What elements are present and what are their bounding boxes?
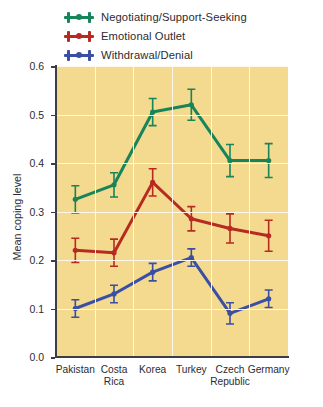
x-axis-tick-label: Pakistan <box>56 364 95 376</box>
x-axis-tick-label: CzechRepublic <box>210 364 250 388</box>
y-axis-tick-label: 0.1 <box>29 303 44 315</box>
data-point-marker <box>189 102 194 107</box>
data-point-marker <box>150 180 155 185</box>
legend-swatch-icon <box>64 30 94 42</box>
vertical-gridline <box>133 66 134 357</box>
legend-item-label: Negotiating/Support-Seeking <box>101 11 247 23</box>
y-axis-tick-label: 0.6 <box>29 60 44 72</box>
data-point-marker <box>111 182 116 187</box>
data-point-marker <box>266 296 271 301</box>
x-axis-tick-label: CostaRica <box>101 364 128 388</box>
chart-legend: Negotiating/Support-SeekingEmotional Out… <box>64 8 247 65</box>
y-axis-tick-label: 0.2 <box>29 254 44 266</box>
x-axis-line <box>55 356 289 358</box>
y-axis-line <box>55 65 57 358</box>
data-point-marker <box>227 311 232 316</box>
y-axis-tick-label: 0.5 <box>29 109 44 121</box>
y-axis-tick-mark <box>51 212 55 214</box>
data-point-marker <box>73 197 78 202</box>
y-axis-tick-mark <box>51 163 55 165</box>
data-point-marker <box>73 248 78 253</box>
coping-level-line-chart: Negotiating/Support-SeekingEmotional Out… <box>0 0 323 407</box>
legend-item-label: Withdrawal/Denial <box>101 49 193 61</box>
y-axis-tick-mark <box>51 115 55 117</box>
legend-swatch-icon <box>64 49 94 61</box>
vertical-gridline <box>249 66 250 357</box>
legend-item-label: Emotional Outlet <box>101 30 185 42</box>
data-point-marker <box>227 226 232 231</box>
vertical-gridline <box>172 66 173 357</box>
y-axis-tick-mark <box>51 357 55 359</box>
x-axis-tick-label: Turkey <box>176 364 207 376</box>
plot-area <box>56 66 288 357</box>
data-point-marker <box>189 216 194 221</box>
legend-item-3: Withdrawal/Denial <box>64 46 247 63</box>
y-axis-title: Mean coping level <box>11 152 23 282</box>
y-axis-tick-label: 0.3 <box>29 206 44 218</box>
x-axis-tick-label: Korea <box>139 364 166 376</box>
y-axis-label-group: 0.00.10.20.30.40.50.6 <box>0 0 52 407</box>
y-axis-tick-mark <box>51 260 55 262</box>
data-point-marker <box>111 291 116 296</box>
x-axis-tick-label: Germany <box>248 364 290 376</box>
data-point-marker <box>111 250 116 255</box>
vertical-gridline <box>95 66 96 357</box>
legend-item-2: Emotional Outlet <box>64 27 247 44</box>
x-axis-label-group: PakistanCostaRicaKoreaTurkeyCzechRepubli… <box>0 360 323 406</box>
y-axis-tick-mark <box>51 309 55 311</box>
data-point-marker <box>150 270 155 275</box>
vertical-gridline <box>211 66 212 357</box>
y-axis-tick-label: 0.4 <box>29 157 44 169</box>
data-point-marker <box>266 233 271 238</box>
y-axis-tick-mark <box>51 66 55 68</box>
legend-item-1: Negotiating/Support-Seeking <box>64 8 247 25</box>
legend-swatch-icon <box>64 11 94 23</box>
